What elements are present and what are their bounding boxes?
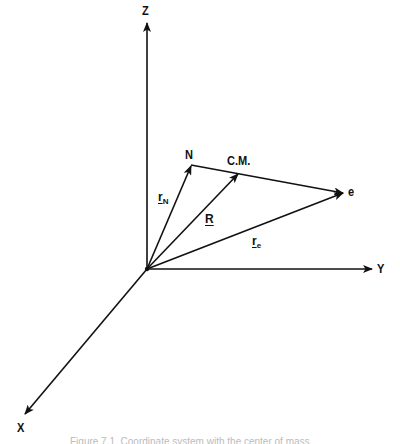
center-of-mass-label: C.M. — [227, 154, 250, 167]
vector-r-n-subscript: N — [163, 197, 169, 206]
vector-r-e-label: re — [252, 235, 261, 250]
vector-r-n — [147, 166, 191, 269]
vector-r-e — [147, 193, 343, 269]
diagram-canvas — [0, 0, 400, 444]
vector-r-e-subscript: e — [257, 241, 261, 250]
x-axis-label: X — [17, 421, 24, 434]
nucleus-electron-line — [191, 165, 343, 193]
vector-r-cm-label: R — [205, 213, 214, 225]
nucleus-label: N — [185, 148, 193, 161]
x-axis — [25, 269, 147, 414]
electron-label: e — [348, 185, 354, 198]
vector-r-n-label: rN — [158, 191, 168, 206]
coordinate-diagram: Z Y X N C.M. e rN R re Figure 7.1. Coord… — [0, 0, 400, 444]
z-axis-label: Z — [142, 4, 149, 17]
y-axis-label: Y — [377, 262, 384, 275]
origin-point — [145, 267, 149, 271]
vector-r-cm-symbol: R — [205, 212, 214, 226]
vector-r-cm — [147, 174, 238, 269]
figure-caption: Figure 7.1. Coordinate system with the c… — [70, 436, 370, 444]
